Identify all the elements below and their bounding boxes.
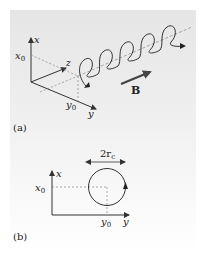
y0-label-b: y0	[100, 216, 111, 229]
magnetic-field-arrow	[121, 72, 150, 84]
axis-x-label-a: x	[34, 34, 40, 45]
axis-z-a	[31, 68, 66, 82]
panel-a-caption: (a)	[13, 122, 27, 133]
floor-guide-a	[40, 76, 78, 92]
figure-canvas: x z y x0 y0 B (a) x y x0 y0 2rc (b)	[0, 0, 203, 253]
axis-z-label-a: z	[65, 58, 71, 68]
y0-label-a: y0	[65, 99, 76, 112]
helix-end-arrow	[180, 43, 186, 49]
x0-label-a: x0	[15, 50, 25, 63]
panel-b-caption: (b)	[13, 231, 27, 242]
magnetic-field-label: B	[131, 84, 140, 97]
orbit-direction-arrow	[123, 182, 128, 189]
helix-trajectory	[80, 26, 184, 86]
diameter-label: 2rc	[100, 148, 115, 161]
axis-y-label-a: y	[87, 108, 94, 119]
panel-b-diagram: x y x0 y0 2rc (b)	[13, 148, 129, 242]
axis-x-label-b: x	[56, 168, 62, 179]
panel-a-diagram: x z y x0 y0 B (a)	[13, 26, 192, 133]
x0-label-b: x0	[35, 182, 45, 195]
axis-y-label-b: y	[122, 216, 129, 227]
